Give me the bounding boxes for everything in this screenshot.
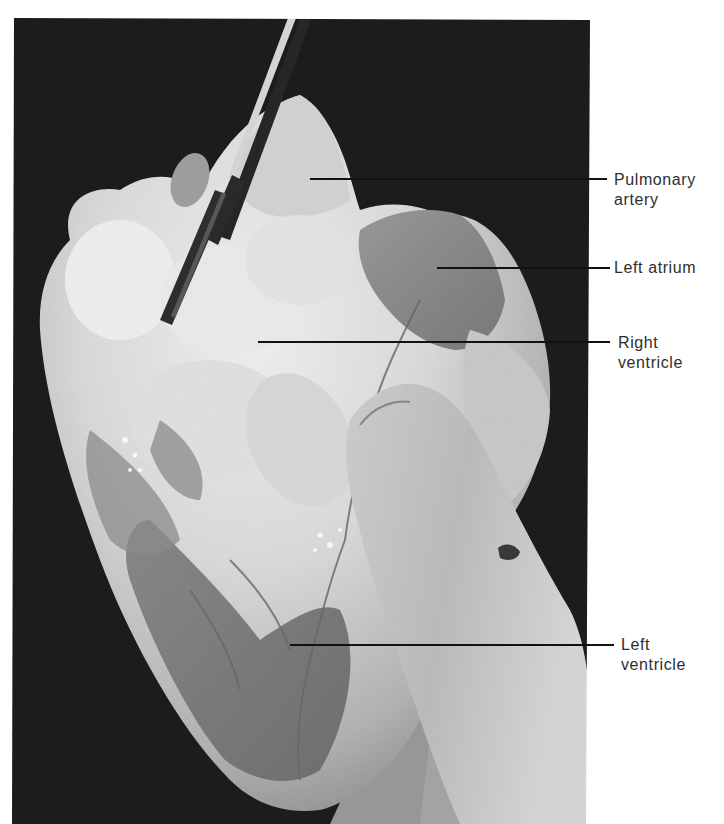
label-text: Left — [621, 635, 686, 655]
label-left-atrium: Left atrium — [614, 258, 696, 278]
label-text: artery — [614, 190, 696, 210]
anatomy-figure: Pulmonary artery Left atrium Right ventr… — [0, 0, 724, 824]
label-left-ventricle: Left ventricle — [621, 635, 686, 675]
label-text: Left atrium — [614, 258, 696, 278]
label-text: Right — [618, 333, 683, 353]
label-right-ventricle: Right ventricle — [618, 333, 683, 373]
label-pulmonary-artery: Pulmonary artery — [614, 170, 696, 210]
label-text: ventricle — [618, 353, 683, 373]
label-text: ventricle — [621, 655, 686, 675]
label-text: Pulmonary — [614, 170, 696, 190]
heart-photograph — [0, 0, 724, 824]
